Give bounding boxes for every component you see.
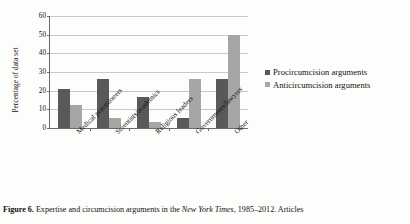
bar <box>58 89 70 128</box>
legend: Procircumcision arguments Anticircumcisi… <box>265 66 370 91</box>
caption-label: Figure 6. <box>3 205 34 214</box>
y-tick-label: 40 <box>39 49 46 57</box>
x-tick-label: Other <box>233 130 239 136</box>
caption-text-after: , 1985–2012. Articles <box>234 205 304 214</box>
figure: Percentage of data set 6050403020100 Med… <box>0 0 410 196</box>
y-tick-label: 60 <box>39 12 46 20</box>
legend-label-anti: Anticircumcision arguments <box>273 79 370 92</box>
y-tick-label: 0 <box>42 124 46 132</box>
caption-text-before: Expertise and circumcision arguments in … <box>34 205 182 214</box>
x-tick-label: Governments/lawyers <box>194 130 200 136</box>
caption-italic-title: New York Times <box>182 205 234 214</box>
figure-caption: Figure 6. Expertise and circumcision arg… <box>3 205 407 215</box>
bar-group <box>50 16 90 128</box>
legend-item-pro: Procircumcision arguments <box>265 66 370 79</box>
legend-item-anti: Anticircumcision arguments <box>265 79 370 92</box>
y-tick-label: 10 <box>39 105 46 113</box>
legend-label-pro: Procircumcision arguments <box>273 66 367 79</box>
legend-swatch-anti-icon <box>265 82 270 87</box>
y-tick-mark <box>47 128 50 129</box>
legend-swatch-pro-icon <box>265 70 270 75</box>
bar <box>228 35 240 128</box>
x-tick-label: Medical practitioners <box>75 130 81 136</box>
x-tick-label: Religious leaders <box>154 130 160 136</box>
y-tick-label: 30 <box>39 68 46 76</box>
y-axis-title: Percentage of data set <box>12 20 20 140</box>
x-tick-label: Scientists/academics <box>114 130 120 136</box>
x-axis-labels: Medical practitionersScientists/academic… <box>49 130 247 192</box>
y-tick-label: 50 <box>39 31 46 39</box>
y-tick-label: 20 <box>39 87 46 95</box>
bar <box>177 118 189 128</box>
